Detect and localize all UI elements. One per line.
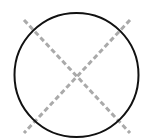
circle-cross-diagram [0, 0, 147, 139]
